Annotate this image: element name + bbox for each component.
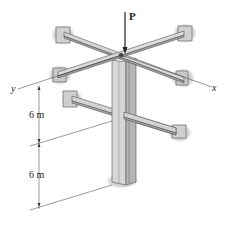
y-axis-line <box>18 55 121 89</box>
dim-line-mid <box>30 121 112 146</box>
y-axis-label: y <box>11 84 15 94</box>
load-label: P <box>129 11 136 21</box>
load-arrow <box>123 12 128 54</box>
dim-label-lower: 6 m <box>29 170 44 180</box>
dim-line-bottom <box>30 185 112 210</box>
x-axis-label: x <box>212 83 216 93</box>
dim-label-upper: 6 m <box>29 110 44 120</box>
